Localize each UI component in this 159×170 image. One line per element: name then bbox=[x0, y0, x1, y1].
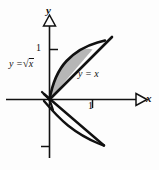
sqrt-argument: x bbox=[29, 58, 34, 69]
sqrt-group: √x bbox=[23, 58, 35, 69]
curve-y-equals-neg-x bbox=[44, 94, 104, 146]
curve-label-y-equals-x: y = x bbox=[78, 69, 99, 79]
y-axis-arrowhead-icon bbox=[44, 15, 56, 26]
figure-canvas bbox=[0, 0, 159, 170]
x-axis-label: x bbox=[146, 93, 152, 104]
curve-label-y-equals-sqrt-x: y =√x bbox=[9, 58, 34, 69]
x-tick-label-1: 1 bbox=[88, 101, 93, 111]
sqrt-label-prefix: y = bbox=[9, 58, 23, 69]
y-tick-label-1: 1 bbox=[36, 43, 41, 53]
math-figure: y x 1 1 y =√x y = x bbox=[0, 0, 159, 170]
y-axis-label: y bbox=[46, 5, 51, 16]
